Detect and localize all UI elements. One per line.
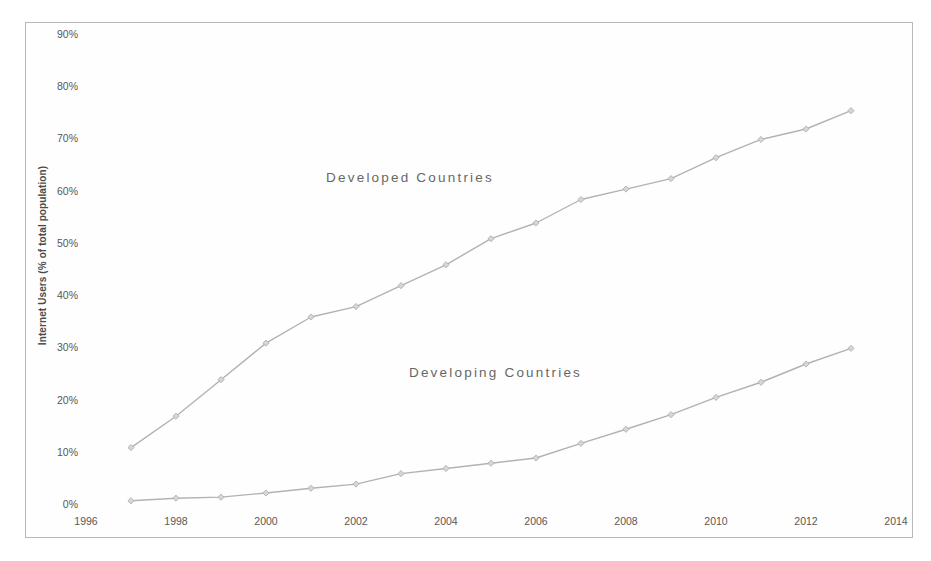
y-axis-tick-label: 30% — [38, 341, 78, 353]
x-axis-tick-label: 1996 — [56, 515, 116, 527]
x-axis-tick-label: 2006 — [506, 515, 566, 527]
x-axis-tick-label: 2000 — [236, 515, 296, 527]
x-axis-tick-label: 2002 — [326, 515, 386, 527]
x-axis-tick-label: 2012 — [776, 515, 836, 527]
y-axis-tick-label: 10% — [38, 446, 78, 458]
x-axis-tick-label: 2008 — [596, 515, 656, 527]
y-axis-tick-label: 70% — [38, 132, 78, 144]
x-axis-tick-label: 2014 — [866, 515, 926, 527]
y-axis-tick-label: 50% — [38, 237, 78, 249]
y-axis-tick-label: 90% — [38, 28, 78, 40]
x-axis-tick-label: 1998 — [146, 515, 206, 527]
chart-figure: Internet Users (% of total population) 0… — [0, 0, 931, 561]
y-axis-tick-label: 0% — [38, 498, 78, 510]
x-axis-tick-label: 2010 — [686, 515, 746, 527]
series-label-1: Developed Countries — [326, 170, 494, 185]
chart-frame — [25, 22, 913, 538]
y-axis-tick-label: 60% — [38, 185, 78, 197]
y-axis-tick-label: 80% — [38, 80, 78, 92]
x-axis-tick-label: 2004 — [416, 515, 476, 527]
series-label-2: Developing Countries — [409, 365, 582, 380]
y-axis-title: Internet Users (% of total population) — [37, 146, 48, 366]
y-axis-tick-label: 40% — [38, 289, 78, 301]
y-axis-tick-label: 20% — [38, 394, 78, 406]
